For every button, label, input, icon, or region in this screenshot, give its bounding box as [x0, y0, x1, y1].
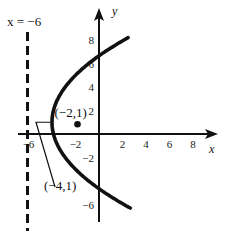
x-tick-label: 8	[190, 138, 196, 150]
x-tick-label: 4	[143, 138, 149, 150]
focus-label: (−2,1)	[55, 105, 87, 120]
parabola-diagram: yx −6−224688642−2−6 x = −6(−2,1)(−4,1)	[0, 0, 227, 231]
y-axis-label: y	[111, 4, 118, 18]
focus-point	[74, 121, 81, 128]
y-tick-label: 4	[89, 81, 95, 93]
x-tick-label: −2	[70, 138, 82, 150]
y-tick-label: −2	[82, 152, 94, 164]
x-axis-label: x	[208, 142, 215, 156]
y-tick-label: −6	[82, 199, 94, 211]
directrix-label: x = −6	[7, 14, 42, 29]
vertex-label: (−4,1)	[44, 178, 76, 193]
annotations: x = −6(−2,1)(−4,1)	[7, 14, 87, 231]
x-tick-label: 2	[120, 138, 126, 150]
y-tick-label: 2	[89, 105, 95, 117]
y-tick-label: 8	[89, 34, 95, 46]
x-tick-label: 6	[167, 138, 173, 150]
